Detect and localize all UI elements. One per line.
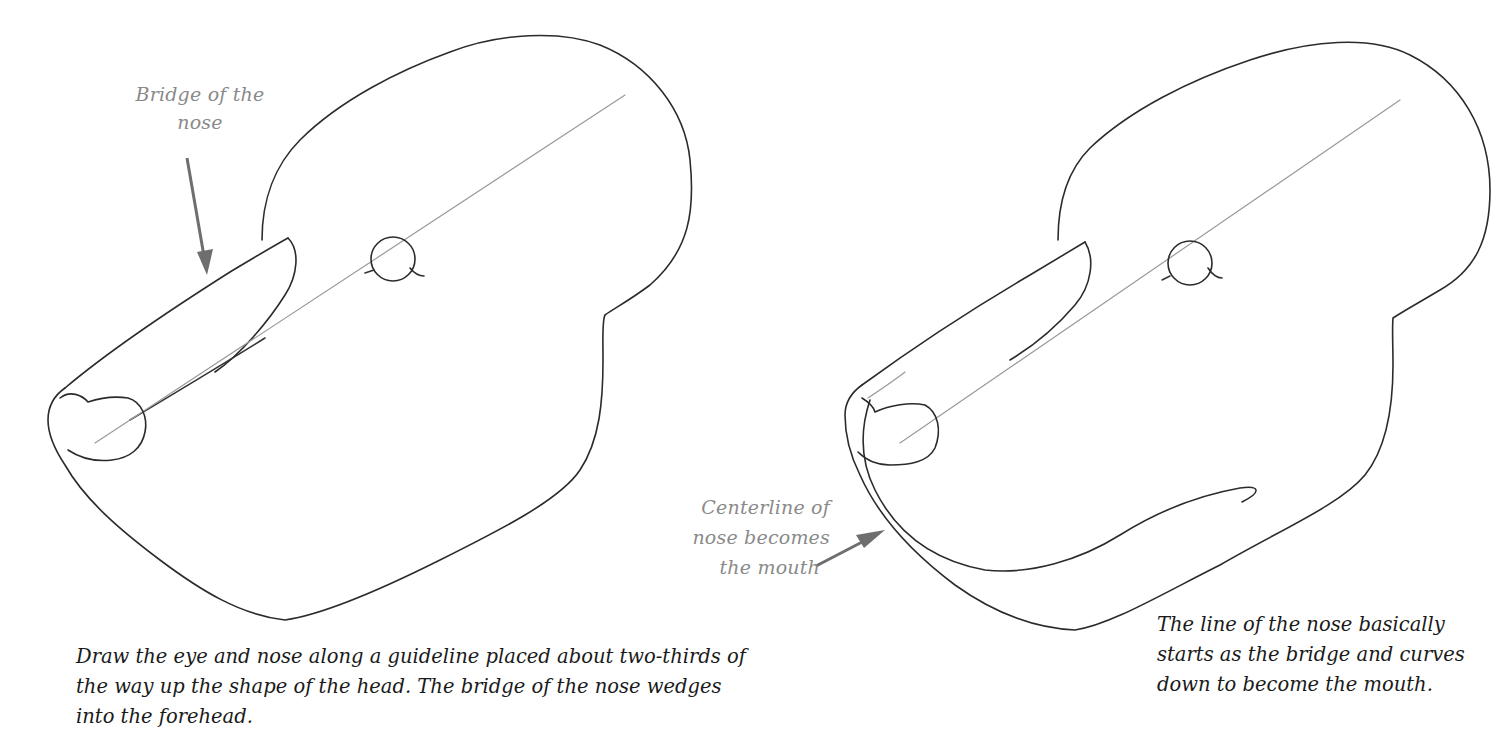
- right-nose-bridge-wedge: [1010, 242, 1091, 360]
- centerline-label: Centerline of nose becomes the mouth: [660, 492, 830, 582]
- right-nose-bridge-top: [862, 242, 1085, 385]
- left-nose-bridge-top: [65, 238, 288, 388]
- right-head-outline: [845, 42, 1490, 630]
- right-eye-tick: [1162, 276, 1170, 280]
- left-nose: [60, 394, 146, 461]
- left-muzzle-underside: [130, 338, 265, 420]
- right-guideline: [900, 100, 1400, 443]
- right-nose: [858, 398, 938, 465]
- right-eye: [1168, 241, 1212, 285]
- bridge-of-nose-label: Bridge of the nose: [115, 80, 285, 136]
- centerline-label-line-1: Centerline of: [660, 492, 830, 522]
- left-eye: [371, 237, 415, 281]
- bridge-label-line-1: Bridge of the: [115, 80, 285, 108]
- bridge-label-line-2: nose: [115, 108, 285, 136]
- arrow-down-icon: [187, 158, 213, 275]
- left-eye-tick: [365, 270, 374, 273]
- centerline-label-line-2: nose becomes: [660, 522, 830, 552]
- centerline-label-line-3: the mouth: [660, 552, 830, 582]
- right-centerline-mouth: [863, 400, 1256, 571]
- illustration-page: Bridge of the nose Centerline of nose be…: [0, 0, 1502, 735]
- left-nose-bridge-wedge: [215, 238, 296, 372]
- left-guideline: [95, 95, 625, 443]
- left-caption: Draw the eye and nose along a guideline …: [76, 642, 776, 732]
- right-caption: The line of the nose basically starts as…: [1157, 610, 1497, 700]
- right-head-drawing: [845, 42, 1490, 630]
